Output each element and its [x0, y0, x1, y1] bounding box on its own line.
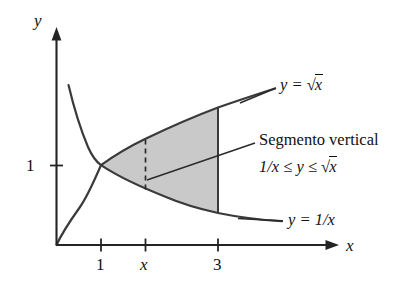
callout-radical-sign: √x — [321, 157, 337, 176]
figure-container: y x 1 1 x 3 y = √x y = 1/x Segmento vert… — [0, 0, 405, 287]
x-tick-label-3: 3 — [213, 256, 222, 273]
sqrt-curve-label-prefix: y = — [280, 75, 307, 94]
x-tick-label-x: x — [140, 256, 148, 273]
x-axis-label: x — [346, 237, 354, 254]
callout-inequality: 1/x ≤ y ≤ √x — [259, 159, 337, 176]
callout-title: Segmento vertical — [259, 132, 379, 149]
radical-sign: √x — [307, 75, 323, 94]
reciprocal-curve-label: y = 1/x — [288, 212, 335, 229]
shaded-region — [101, 108, 218, 214]
sqrt-curve-label-radicand: x — [315, 74, 323, 94]
callout-inequality-prefix: 1/x ≤ y ≤ — [259, 157, 321, 176]
sqrt-label-leader-line — [240, 88, 276, 103]
y-axis-label: y — [34, 12, 42, 29]
callout-radicand: x — [329, 156, 337, 176]
y-axis-arrowhead — [52, 27, 62, 41]
sqrt-curve-label: y = √x — [280, 77, 323, 94]
y-tick-label-1: 1 — [26, 157, 35, 174]
x-tick-label-1: 1 — [96, 256, 105, 273]
x-axis-arrowhead — [326, 240, 340, 250]
